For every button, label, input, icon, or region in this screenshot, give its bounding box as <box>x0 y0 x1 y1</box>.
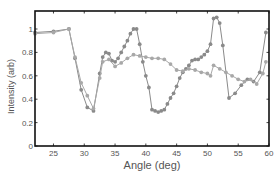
data-point <box>119 51 123 55</box>
data-point <box>199 70 203 74</box>
data-point <box>172 91 176 95</box>
data-point <box>85 94 89 98</box>
data-point <box>162 108 166 112</box>
data-point <box>79 81 83 85</box>
x-tick-label: 25 <box>49 149 58 158</box>
data-point <box>218 67 222 71</box>
data-point <box>67 27 71 31</box>
data-point <box>169 96 173 100</box>
x-tick-label: 30 <box>80 149 89 158</box>
series-layer <box>33 15 268 114</box>
data-point <box>73 55 77 59</box>
y-tick-label: 0 <box>29 142 34 151</box>
data-point <box>98 76 102 80</box>
data-point <box>101 60 105 64</box>
y-axis-label: Intensity (arb) <box>6 59 16 114</box>
data-point <box>230 74 234 78</box>
data-point <box>187 67 191 71</box>
data-point <box>138 42 142 46</box>
data-point <box>113 65 117 69</box>
data-point <box>221 44 225 48</box>
y-tick-label: 0.2 <box>22 119 34 128</box>
data-point <box>175 84 179 88</box>
data-point <box>218 21 222 25</box>
data-point <box>264 31 268 35</box>
data-point <box>178 76 182 80</box>
data-point <box>236 77 240 81</box>
data-point <box>175 68 179 72</box>
data-point <box>150 56 154 60</box>
data-point <box>144 55 148 59</box>
data-point <box>162 58 166 62</box>
data-point <box>196 58 200 62</box>
plot-frame <box>35 11 269 146</box>
data-point <box>206 72 210 76</box>
data-point <box>144 74 148 78</box>
data-point <box>122 45 126 49</box>
data-point <box>206 49 210 53</box>
y-axis: 00.20.40.60.81 <box>22 25 269 151</box>
data-point <box>116 56 120 60</box>
data-point <box>227 96 231 100</box>
data-point <box>249 77 253 81</box>
data-point <box>138 54 142 58</box>
data-point <box>156 56 160 60</box>
data-point <box>126 39 130 43</box>
data-point <box>215 15 219 19</box>
data-point <box>141 60 145 64</box>
data-point <box>264 60 268 64</box>
x-tick-label: 55 <box>234 149 243 158</box>
data-point <box>92 107 96 111</box>
data-point <box>243 80 247 84</box>
data-point <box>129 32 133 36</box>
data-point <box>233 91 237 95</box>
data-point <box>209 42 213 46</box>
x-tick-label: 35 <box>111 149 120 158</box>
x-tick-label: 40 <box>141 149 150 158</box>
data-point <box>199 55 203 59</box>
data-point <box>202 53 206 57</box>
data-point <box>261 72 265 76</box>
data-point <box>135 27 139 31</box>
data-point <box>52 31 56 35</box>
line-chart: 2530354045505560 00.20.40.60.81 Angle (d… <box>0 0 279 177</box>
data-point <box>147 86 151 90</box>
data-point <box>169 62 173 66</box>
data-point <box>132 53 136 57</box>
data-point <box>101 55 105 59</box>
x-axis-label: Angle (deg) <box>124 159 181 171</box>
data-point <box>239 83 243 87</box>
data-point <box>224 70 228 74</box>
y-tick-label: 1 <box>29 25 34 34</box>
data-point <box>107 52 111 56</box>
y-tick-label: 0.4 <box>22 95 34 104</box>
y-tick-label: 0.8 <box>22 48 34 57</box>
data-point <box>209 74 213 78</box>
data-point <box>119 61 123 65</box>
x-tick-label: 50 <box>203 149 212 158</box>
data-point <box>113 60 117 64</box>
data-point <box>166 102 170 106</box>
data-point <box>85 106 89 110</box>
data-point <box>193 68 197 72</box>
x-tick-label: 60 <box>265 149 274 158</box>
data-point <box>187 63 191 67</box>
data-point <box>79 88 83 92</box>
chart-canvas: 2530354045505560 00.20.40.60.81 Angle (d… <box>0 0 279 177</box>
data-point <box>181 69 185 73</box>
data-point <box>255 82 259 86</box>
y-tick-label: 0.6 <box>22 72 34 81</box>
x-tick-label: 45 <box>172 149 181 158</box>
data-point <box>212 63 216 67</box>
data-point <box>107 58 111 62</box>
data-point <box>126 56 130 60</box>
